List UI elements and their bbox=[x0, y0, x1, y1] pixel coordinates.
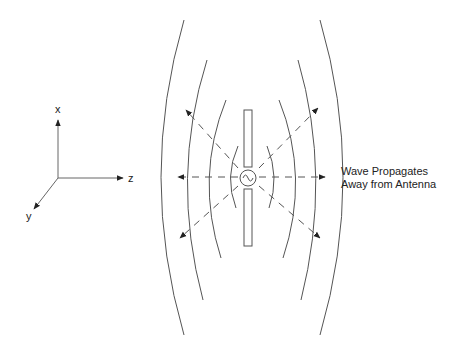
arrow-up-right bbox=[259, 108, 318, 168]
coordinate-axes bbox=[34, 120, 123, 209]
antenna-lower-element bbox=[244, 189, 252, 246]
y-axis bbox=[34, 178, 58, 209]
z-axis-label: z bbox=[128, 172, 134, 185]
dipole-antenna bbox=[240, 110, 256, 246]
wavefront-arc-right-3 bbox=[298, 60, 316, 300]
annotation-line-2: Away from Antenna bbox=[341, 178, 436, 191]
wavefront-arc-right-4 bbox=[320, 20, 343, 335]
y-axis-label: y bbox=[26, 210, 32, 223]
wavefront-arc-left-3 bbox=[187, 60, 207, 300]
wavefront-arc-right-2 bbox=[279, 100, 296, 258]
annotation-line-1: Wave Propagates bbox=[341, 165, 428, 178]
antenna-upper-element bbox=[244, 110, 252, 167]
arrow-up-left bbox=[186, 110, 238, 168]
wavefront-arc-left-2 bbox=[209, 100, 226, 258]
x-axis-label: x bbox=[55, 103, 61, 116]
arrow-down-right bbox=[259, 186, 320, 238]
